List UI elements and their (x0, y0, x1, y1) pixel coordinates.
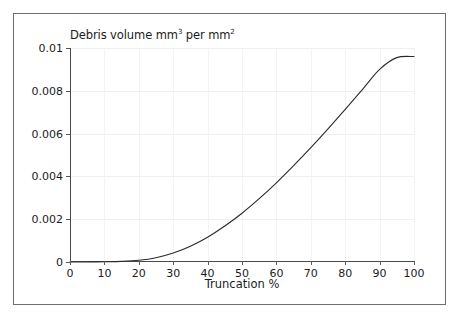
x-axis-tick (345, 261, 346, 265)
y-axis-tick (66, 134, 70, 135)
y-axis-tick (66, 48, 70, 49)
y-axis-tick (66, 176, 70, 177)
chart-title-superscript-2: 2 (230, 28, 234, 36)
x-axis-tick (242, 261, 243, 265)
plot-area: 00.0020.0040.0060.0080.01010203040506070… (70, 48, 414, 262)
chart-title-text-mid: per mm (182, 28, 230, 42)
x-axis-tick (414, 261, 415, 265)
gridline-vertical (414, 48, 415, 262)
figure-canvas: Debris volume mm3 per mm2 00.0020.0040.0… (0, 0, 458, 318)
x-axis-tick (173, 261, 174, 265)
y-axis-tick-label: 0.002 (32, 213, 64, 226)
chart-title-text: Debris volume mm (70, 28, 178, 42)
x-axis-tick (70, 261, 71, 265)
y-axis-tick-label: 0.006 (32, 127, 64, 140)
chart-title: Debris volume mm3 per mm2 (70, 28, 235, 42)
y-axis-tick (66, 219, 70, 220)
series-line-debris-volume (70, 56, 414, 262)
x-axis-tick (276, 261, 277, 265)
y-axis-tick-label: 0.01 (39, 42, 64, 55)
y-axis-tick-label: 0.008 (32, 84, 64, 97)
y-axis-tick-label: 0.004 (32, 170, 64, 183)
x-axis-tick (208, 261, 209, 265)
x-axis-tick (380, 261, 381, 265)
data-series-curve (70, 48, 414, 262)
x-axis-tick (139, 261, 140, 265)
y-axis-tick (66, 91, 70, 92)
x-axis-tick (104, 261, 105, 265)
x-axis-tick (311, 261, 312, 265)
x-axis-title: Truncation % (70, 277, 414, 291)
y-axis-tick-label: 0 (56, 256, 63, 269)
